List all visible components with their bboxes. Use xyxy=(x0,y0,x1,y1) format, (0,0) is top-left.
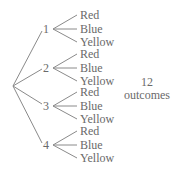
leaf-red: Red xyxy=(80,86,99,98)
leaf-red: Red xyxy=(80,125,99,137)
leaf-blue: Blue xyxy=(80,100,103,112)
branch-label-1: 1 xyxy=(43,23,49,35)
outcome-label: outcomes xyxy=(124,89,170,101)
branch-label-4: 4 xyxy=(43,139,49,151)
leaf-red: Red xyxy=(80,9,99,21)
leaf-blue: Blue xyxy=(80,23,103,35)
leaf-blue: Blue xyxy=(80,62,103,74)
leaf-red: Red xyxy=(80,48,99,60)
leaf-blue: Blue xyxy=(80,139,103,151)
leaf-yellow: Yellow xyxy=(80,152,114,164)
branch-label-2: 2 xyxy=(43,62,49,74)
outcome-count: 12 xyxy=(141,76,153,88)
branch-label-3: 3 xyxy=(43,100,49,112)
